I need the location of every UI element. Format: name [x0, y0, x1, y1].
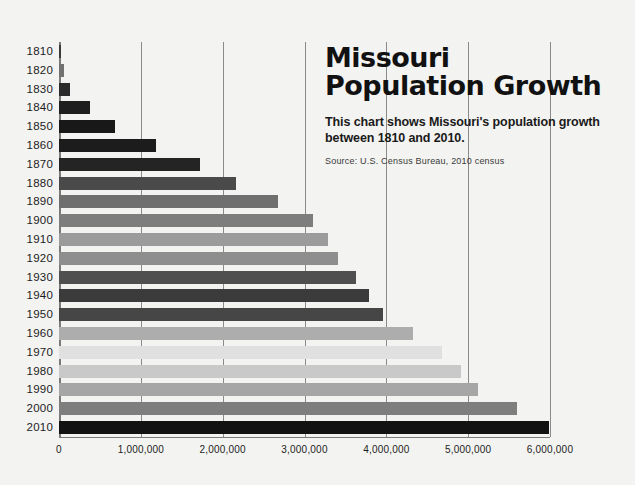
y-tick-label-1830: 1830 — [7, 83, 53, 96]
bar-row: 1940 — [59, 289, 550, 302]
y-tick-label-1880: 1880 — [7, 177, 53, 190]
y-tick-label-1950: 1950 — [7, 308, 53, 321]
chart-page: 1810182018301840185018601870188018901900… — [0, 0, 635, 485]
chart-header: Missouri Population Growth This chart sh… — [325, 44, 625, 166]
bar-1810 — [59, 45, 61, 58]
y-tick-label-1960: 1960 — [7, 327, 53, 340]
bar-1990 — [59, 383, 478, 396]
bar-row: 1890 — [59, 195, 550, 208]
bar-1900 — [59, 214, 313, 227]
bar-1950 — [59, 308, 383, 321]
y-tick-label-1940: 1940 — [7, 289, 53, 302]
bar-row: 2000 — [59, 402, 550, 415]
y-tick-label-2010: 2010 — [7, 421, 53, 434]
x-tick-label: 2,000,000 — [200, 444, 246, 455]
x-tick-label: 5,000,000 — [445, 444, 491, 455]
x-tick-label: 1,000,000 — [118, 444, 164, 455]
bar-row: 2010 — [59, 421, 550, 434]
y-tick-label-1910: 1910 — [7, 233, 53, 246]
bar-row: 1930 — [59, 271, 550, 284]
bar-1870 — [59, 158, 200, 171]
y-tick-label-1900: 1900 — [7, 214, 53, 227]
y-tick-label-1970: 1970 — [7, 346, 53, 359]
bar-1980 — [59, 365, 461, 378]
bar-1880 — [59, 177, 236, 190]
chart-subtitle: This chart shows Missouri's population g… — [325, 114, 625, 146]
bar-row: 1970 — [59, 346, 550, 359]
bar-row: 1910 — [59, 233, 550, 246]
bar-row: 1920 — [59, 252, 550, 265]
title-line-2: Population Growth — [325, 72, 625, 100]
y-tick-label-1820: 1820 — [7, 64, 53, 77]
y-tick-label-1990: 1990 — [7, 383, 53, 396]
bar-1930 — [59, 271, 356, 284]
bar-2010 — [59, 421, 549, 434]
y-tick-label-1840: 1840 — [7, 101, 53, 114]
y-tick-label-1890: 1890 — [7, 195, 53, 208]
y-tick-label-1810: 1810 — [7, 45, 53, 58]
bar-1850 — [59, 120, 115, 133]
chart-source: Source: U.S. Census Bureau, 2010 census — [325, 156, 625, 166]
bar-1830 — [59, 83, 70, 96]
bar-1960 — [59, 327, 413, 340]
bar-1970 — [59, 346, 442, 359]
y-tick-label-2000: 2000 — [7, 402, 53, 415]
bar-1890 — [59, 195, 278, 208]
bar-row: 1950 — [59, 308, 550, 321]
x-tick-label: 4,000,000 — [363, 444, 409, 455]
y-tick-label-1850: 1850 — [7, 120, 53, 133]
page-title: Missouri Population Growth — [325, 44, 625, 100]
bar-row: 1980 — [59, 365, 550, 378]
bar-row: 1990 — [59, 383, 550, 396]
bar-1920 — [59, 252, 338, 265]
y-tick-label-1930: 1930 — [7, 271, 53, 284]
y-tick-label-1980: 1980 — [7, 365, 53, 378]
y-tick-label-1920: 1920 — [7, 252, 53, 265]
title-line-1: Missouri — [325, 42, 450, 73]
bar-1860 — [59, 139, 156, 152]
bar-1820 — [59, 64, 64, 77]
bar-row: 1900 — [59, 214, 550, 227]
bar-1910 — [59, 233, 328, 246]
bar-2000 — [59, 402, 517, 415]
bar-row: 1880 — [59, 177, 550, 190]
x-tick-label: 6,000,000 — [527, 444, 573, 455]
bar-1840 — [59, 101, 90, 114]
bar-row: 1960 — [59, 327, 550, 340]
x-tick-label: 3,000,000 — [281, 444, 327, 455]
bar-1940 — [59, 289, 369, 302]
y-tick-label-1870: 1870 — [7, 158, 53, 171]
x-tick-label: 0 — [56, 444, 62, 455]
y-tick-label-1860: 1860 — [7, 139, 53, 152]
